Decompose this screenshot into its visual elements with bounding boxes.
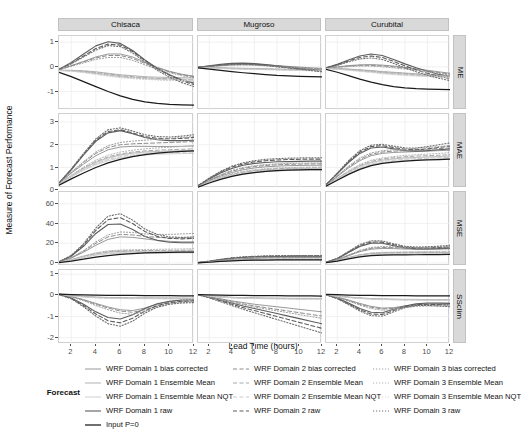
panel-plot <box>326 36 450 110</box>
facet-row-label: MSE <box>455 219 464 236</box>
facet-row-label: ME <box>455 66 464 78</box>
x-tick-label: 6 <box>117 347 121 356</box>
x-tick-label: 8 <box>274 347 278 356</box>
series-line-d2-nqt <box>326 157 450 186</box>
facet-panel-chisaca-mse <box>58 191 193 265</box>
facet-col-label: Curubital <box>371 20 403 29</box>
facet-panel-mugroso-mae <box>197 113 321 187</box>
x-tick-mark <box>119 344 120 347</box>
legend-key-d2-ens <box>232 379 250 387</box>
facet-panel-curubital-me <box>325 35 449 109</box>
legend-item-label: WRF Domain 2 Ensemble Mean <box>254 376 363 390</box>
y-tick-label: 1 <box>34 37 54 46</box>
legend-key-d3-bias <box>372 365 390 373</box>
facet-row-strip-mse: MSE <box>453 191 466 265</box>
x-tick-mark <box>426 344 427 347</box>
y-tick-label: 2 <box>34 139 54 148</box>
facet-panel-curubital-ssclim <box>325 269 449 343</box>
x-tick-mark <box>321 344 322 347</box>
x-tick-label: 4 <box>357 347 361 356</box>
series-line-input-p0 <box>198 295 322 296</box>
x-tick-label: 6 <box>251 347 255 356</box>
x-tick-label: 8 <box>142 347 146 356</box>
y-tick-label: 60 <box>34 198 54 207</box>
x-tick-mark <box>95 344 96 347</box>
facet-panel-chisaca-me <box>58 35 193 109</box>
y-tick-label: 0 <box>34 61 54 70</box>
x-tick-mark <box>449 344 450 347</box>
legend-key-d1-ens <box>84 379 102 387</box>
x-tick-label: 6 <box>379 347 383 356</box>
x-tick-label: 2 <box>206 347 210 356</box>
x-tick-mark <box>231 344 232 347</box>
facet-panel-mugroso-me <box>197 35 321 109</box>
x-tick-mark <box>276 344 277 347</box>
legend-item-label: WRF Domain 1 bias corrected <box>106 362 208 376</box>
panel-plot <box>198 114 322 188</box>
facet-row-strip-me: ME <box>453 35 466 109</box>
legend-title: Forecast <box>28 388 80 397</box>
facet-grid: ChisacaMugrosoCurubital10-1ME3210MAE6040… <box>58 18 466 347</box>
facet-row-label: SSclim <box>455 294 464 319</box>
panel-plot <box>59 270 194 344</box>
panel-plot <box>59 36 194 110</box>
series-line-input-p0 <box>326 159 450 186</box>
x-tick-label: 10 <box>422 347 430 356</box>
legend: Forecast WRF Domain 1 bias correctedWRF … <box>0 360 518 440</box>
legend-item-label: WRF Domain 2 raw <box>254 404 320 418</box>
panel-plot <box>326 114 450 188</box>
legend-key-d1-raw <box>84 407 102 415</box>
x-tick-mark <box>336 344 337 347</box>
y-axis-title: Measure of Forecast Performance <box>2 0 16 340</box>
x-tick-mark <box>208 344 209 347</box>
series-line-d2-raw <box>59 218 194 262</box>
y-tick-label: 0 <box>34 290 54 299</box>
series-line-d3-bias <box>59 57 194 77</box>
legend-key-d2-bias <box>232 365 250 373</box>
series-line-d2-bias <box>59 142 194 184</box>
x-tick-label: 2 <box>334 347 338 356</box>
y-tick-label: 3 <box>34 116 54 125</box>
x-tick-label: 12 <box>189 347 197 356</box>
facet-col-strip-curubital: Curubital <box>325 18 449 31</box>
legend-item-label: WRF Domain 1 raw <box>106 404 172 418</box>
panel-plot <box>326 270 450 344</box>
legend-item-label: WRF Domain 3 raw <box>394 404 460 418</box>
y-tick-label: 0 <box>34 258 54 267</box>
legend-item-label: WRF Domain 3 Ensemble Mean NQT <box>394 390 521 404</box>
facet-col-label: Chisaca <box>111 20 140 29</box>
legend-item-label: WRF Domain 1 Ensemble Mean <box>106 376 215 390</box>
y-tick-label: 0 <box>34 185 54 194</box>
x-tick-label: 4 <box>93 347 97 356</box>
x-tick-mark <box>144 344 145 347</box>
legend-key-d3-ens <box>372 379 390 387</box>
panel-plot <box>59 114 194 188</box>
x-tick-label: 2 <box>68 347 72 356</box>
x-tick-label: 12 <box>445 347 453 356</box>
x-tick-label: 10 <box>294 347 302 356</box>
y-tick-label: -1 <box>34 311 54 320</box>
legend-key-d1-bias <box>84 365 102 373</box>
y-tick-label: 1 <box>34 269 54 278</box>
legend-key-d2-raw <box>232 407 250 415</box>
x-tick-mark <box>253 344 254 347</box>
facet-col-label: Mugroso <box>243 20 274 29</box>
x-tick-label: 12 <box>317 347 325 356</box>
x-tick-mark <box>193 344 194 347</box>
facet-row-strip-mae: MAE <box>453 113 466 187</box>
y-tick-mark <box>55 189 58 190</box>
x-tick-mark <box>404 344 405 347</box>
panel-plot <box>59 192 194 266</box>
y-tick-label: 1 <box>34 162 54 171</box>
facet-col-strip-chisaca: Chisaca <box>58 18 193 31</box>
panel-plot <box>198 36 322 110</box>
x-tick-mark <box>298 344 299 347</box>
panel-plot <box>198 192 322 266</box>
facet-panel-chisaca-mae <box>58 113 193 187</box>
legend-key-d2-nqt <box>232 393 250 401</box>
facet-col-strip-mugroso: Mugroso <box>197 18 321 31</box>
x-tick-mark <box>381 344 382 347</box>
y-tick-label: -2 <box>34 332 54 341</box>
series-line-d3-raw <box>326 143 450 185</box>
series-line-d2-raw <box>198 295 322 329</box>
